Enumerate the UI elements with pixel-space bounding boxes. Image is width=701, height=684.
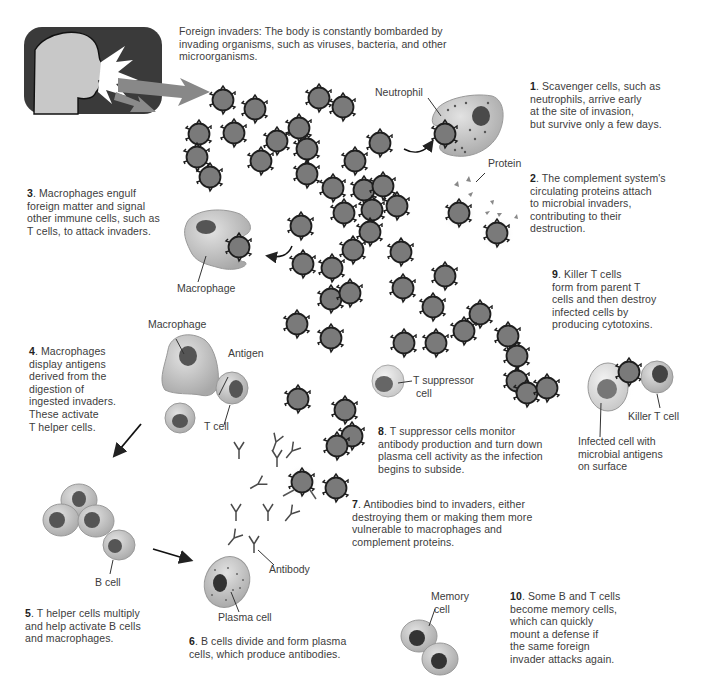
killer-t-cell-attack bbox=[586, 358, 673, 437]
step-2-text: 2. The complement system's circulating p… bbox=[530, 172, 666, 235]
label-b-cell: B cell bbox=[95, 576, 121, 589]
label-neutrophil: Neutrophil bbox=[375, 86, 423, 99]
label-infected-cell: Infected cell with microbial antigens on… bbox=[578, 435, 663, 473]
label-memory-cell: Memory cell bbox=[431, 590, 469, 615]
label-antigen: Antigen bbox=[228, 347, 264, 360]
complement-proteins bbox=[441, 173, 518, 251]
label-t-cell: T cell bbox=[204, 420, 229, 433]
label-killer-t-cell: Killer T cell bbox=[628, 410, 679, 423]
t-suppressor-cell bbox=[372, 365, 412, 397]
macrophage-engulfing bbox=[185, 210, 292, 282]
step-9-text: 9. Killer T cells form from parent T cel… bbox=[552, 268, 656, 331]
step-3-text: 3. Macrophages engulf foreign matter and… bbox=[27, 187, 160, 237]
intro-text: Foreign invaders: The body is constantly… bbox=[179, 25, 447, 63]
neutrophil-cell bbox=[404, 95, 503, 156]
step-1-text: 1. Scavenger cells, such as neutrophils,… bbox=[530, 80, 662, 130]
plasma-cell bbox=[196, 549, 258, 615]
step-7-text: 7. Antibodies bind to invaders, either d… bbox=[352, 498, 532, 548]
label-antibody: Antibody bbox=[269, 563, 310, 576]
b-cells bbox=[43, 484, 135, 574]
antibodies bbox=[224, 433, 320, 565]
label-macrophage-2: Macrophage bbox=[148, 318, 206, 331]
label-macrophage-1: Macrophage bbox=[177, 282, 235, 295]
label-t-suppressor: T suppressor cell bbox=[413, 374, 474, 399]
memory-cells bbox=[401, 609, 458, 675]
step-6-text: 6. B cells divide and form plasma cells,… bbox=[189, 635, 346, 660]
step-10-text: 10. Some B and T cells become memory cel… bbox=[510, 590, 620, 666]
step-5-text: 5. T helper cells multiply and help acti… bbox=[25, 607, 141, 645]
step-4-text: 4. Macrophages display antigens derived … bbox=[29, 345, 116, 433]
label-protein: Protein bbox=[488, 157, 521, 170]
step-8-text: 8. T suppressor cells monitor antibody p… bbox=[378, 425, 543, 475]
label-plasma-cell: Plasma cell bbox=[218, 611, 272, 624]
